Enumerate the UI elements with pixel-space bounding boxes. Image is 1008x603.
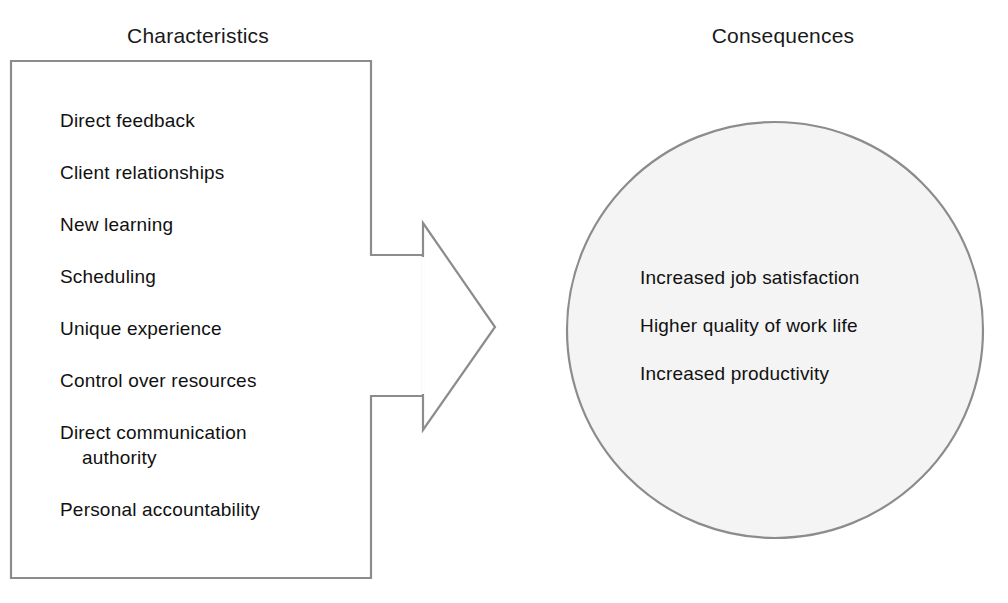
characteristic-label: New learning	[60, 214, 173, 235]
characteristic-label: Direct feedback	[60, 110, 195, 131]
characteristic-label: Client relationships	[60, 162, 225, 183]
characteristic-label: Unique experience	[60, 318, 222, 339]
characteristic-item: Direct feedback	[60, 108, 350, 133]
characteristic-label: Scheduling	[60, 266, 156, 287]
consequence-label: Higher quality of work life	[640, 315, 858, 336]
characteristic-label-continued: authority	[60, 445, 350, 470]
consequence-item: Increased productivity	[640, 361, 960, 386]
consequence-label: Increased productivity	[640, 363, 829, 384]
consequence-label: Increased job satisfaction	[640, 267, 860, 288]
characteristics-heading: Characteristics	[58, 24, 338, 48]
characteristic-item: Direct communication authority	[60, 420, 350, 470]
consequences-list: Increased job satisfaction Higher qualit…	[640, 265, 960, 409]
characteristic-item: Scheduling	[60, 264, 350, 289]
characteristic-item: Control over resources	[60, 368, 350, 393]
characteristics-list: Direct feedback Client relationships New…	[60, 108, 350, 549]
characteristic-label: Personal accountability	[60, 499, 260, 520]
right-arrow-head	[423, 223, 495, 430]
characteristic-item: Unique experience	[60, 316, 350, 341]
consequence-item: Increased job satisfaction	[640, 265, 960, 290]
diagram-canvas: Characteristics Consequences Direct feed…	[0, 0, 1008, 603]
characteristic-item: Personal accountability	[60, 497, 350, 522]
consequence-item: Higher quality of work life	[640, 313, 960, 338]
characteristic-label: Control over resources	[60, 370, 257, 391]
characteristic-item: New learning	[60, 212, 350, 237]
consequences-heading: Consequences	[653, 24, 913, 48]
characteristic-label: Direct communication	[60, 422, 247, 443]
characteristic-item: Client relationships	[60, 160, 350, 185]
